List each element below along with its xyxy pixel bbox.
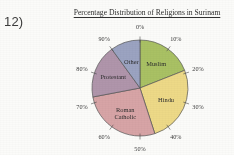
pie-tick-label: 90% <box>96 35 112 42</box>
pie-tick-label: 70% <box>74 103 90 110</box>
worksheet-page: 12) Percentage Distribution of Religions… <box>0 0 234 155</box>
pie-tick-label: 20% <box>190 65 206 72</box>
pie-tick-label: 60% <box>96 133 112 140</box>
pie-slice-label: Hindu <box>148 96 184 103</box>
pie-tick-label: 30% <box>190 103 206 110</box>
pie-tick-label: 0% <box>132 23 148 30</box>
pie-tick-label: 50% <box>132 145 148 152</box>
pie-chart: 0%10%20%30%40%50%60%70%80%90% MuslimHind… <box>0 0 234 155</box>
pie-tick-label: 80% <box>74 65 90 72</box>
pie-tick-label: 10% <box>168 35 184 42</box>
pie-slice-label: Roman Catholic <box>107 106 143 121</box>
pie-tick-label: 40% <box>168 133 184 140</box>
pie-slices <box>92 40 188 136</box>
pie-slice-label: Protestant <box>95 73 131 80</box>
pie-slice-label: Other <box>113 58 149 65</box>
